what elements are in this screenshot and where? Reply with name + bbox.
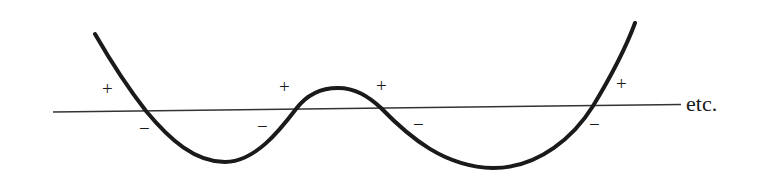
sign-minus-2: − (257, 116, 268, 137)
sign-plus-2: + (279, 76, 290, 97)
function-curve (95, 23, 635, 168)
sign-plus-3: + (376, 75, 387, 96)
axis-etc-label: etc. (686, 91, 717, 116)
sign-plus-1: + (102, 78, 113, 99)
sign-minus-4: − (589, 114, 600, 135)
sign-plus-4: + (616, 73, 627, 94)
sign-minus-1: − (139, 118, 150, 139)
sign-change-diagram: + − − + + − − + etc. (0, 0, 759, 179)
sign-minus-3: − (413, 114, 424, 135)
